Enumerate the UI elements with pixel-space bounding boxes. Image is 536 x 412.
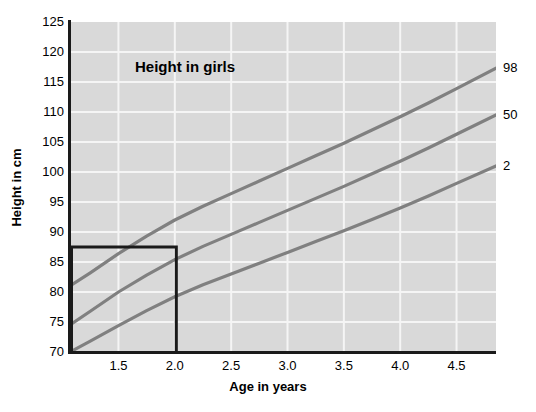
curve-label-98: 98 — [503, 60, 517, 75]
curves-layer — [70, 22, 496, 352]
series-curve-50 — [70, 115, 496, 325]
x-tick-label: 2.0 — [153, 358, 197, 373]
x-tick-label: 4.0 — [378, 358, 422, 373]
y-axis-title: Height in cm — [9, 128, 24, 248]
y-tick-label: 95 — [30, 195, 64, 208]
y-tick-label: 120 — [30, 45, 64, 58]
y-axis-line — [68, 20, 71, 354]
x-axis-title: Age in years — [0, 379, 536, 394]
series-paths — [70, 68, 496, 352]
y-tick-label: 100 — [30, 165, 64, 178]
x-tick-label: 1.5 — [96, 358, 140, 373]
y-tick-label: 75 — [30, 315, 64, 328]
x-tick-label: 3.0 — [266, 358, 310, 373]
y-tick-label: 70 — [30, 345, 64, 358]
y-tick-label: 90 — [30, 225, 64, 238]
series-curve-2 — [70, 166, 496, 352]
x-tick-label: 3.5 — [322, 358, 366, 373]
x-axis-line — [68, 351, 496, 354]
chart-title: Height in girls — [135, 58, 235, 75]
y-tick-label: 125 — [30, 15, 64, 28]
curve-label-50: 50 — [503, 107, 517, 122]
growth-chart: 125120115110105100959085807570 1.52.02.5… — [0, 0, 536, 412]
x-tick-label: 4.5 — [435, 358, 479, 373]
y-tick-label: 115 — [30, 75, 64, 88]
y-axis-tick-labels: 125120115110105100959085807570 — [28, 0, 64, 412]
y-tick-label: 80 — [30, 285, 64, 298]
x-tick-label: 2.5 — [209, 358, 253, 373]
y-tick-label: 105 — [30, 135, 64, 148]
y-tick-label: 110 — [30, 105, 64, 118]
y-tick-label: 85 — [30, 255, 64, 268]
plot-area — [70, 22, 496, 352]
curve-label-2: 2 — [503, 158, 510, 173]
